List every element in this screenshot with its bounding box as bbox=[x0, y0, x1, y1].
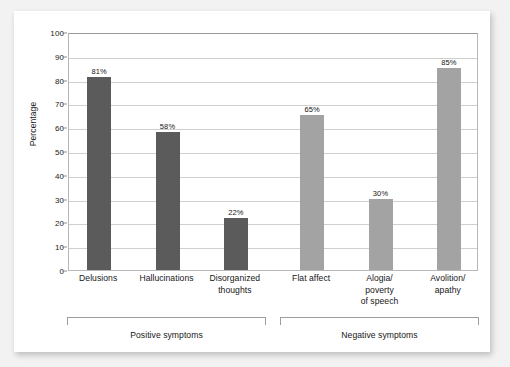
x-axis-category-labels: DelusionsHallucinationsDisorganizedthoug… bbox=[68, 273, 478, 321]
y-tick-mark bbox=[62, 56, 67, 57]
bar-value-label: 81% bbox=[92, 67, 107, 76]
y-tick-label: 70 bbox=[20, 100, 64, 109]
figure-panel: Percentage 1009080706050403020100 81%58%… bbox=[14, 11, 490, 352]
y-tick-mark bbox=[62, 199, 67, 200]
y-tick-mark bbox=[62, 247, 67, 248]
group-brackets: Positive symptomsNegative symptoms bbox=[68, 317, 478, 351]
gridline bbox=[69, 201, 477, 202]
x-category-label-line: Avolition/ bbox=[401, 273, 495, 285]
x-category-label-line: of speech bbox=[333, 296, 427, 308]
gridline bbox=[69, 153, 477, 154]
y-tick-label: 60 bbox=[20, 124, 64, 133]
bar: 65% bbox=[300, 115, 324, 270]
gridline bbox=[69, 224, 477, 225]
x-category-label: Avolition/apathy bbox=[401, 273, 495, 296]
bar-value-label: 85% bbox=[441, 58, 456, 67]
bar: 30% bbox=[369, 199, 393, 270]
y-tick-mark bbox=[62, 175, 67, 176]
y-axis-tick-group: 1009080706050403020100 bbox=[14, 33, 64, 271]
gridline bbox=[69, 105, 477, 106]
gridline bbox=[69, 58, 477, 59]
gridline bbox=[69, 129, 477, 130]
group-bracket-label: Negative symptoms bbox=[280, 330, 480, 340]
y-tick-mark bbox=[62, 223, 67, 224]
group-bracket bbox=[67, 317, 267, 325]
gridline bbox=[69, 177, 477, 178]
bar-value-label: 65% bbox=[305, 105, 320, 114]
y-tick-mark bbox=[62, 104, 67, 105]
bar-chart: Percentage 1009080706050403020100 81%58%… bbox=[14, 11, 490, 352]
plot-area: 81%58%22%65%30%85% bbox=[68, 33, 478, 271]
bar: 22% bbox=[224, 218, 248, 270]
y-tick-label: 80 bbox=[20, 76, 64, 85]
gridline bbox=[69, 82, 477, 83]
bar-value-label: 30% bbox=[373, 189, 388, 198]
y-tick-label: 30 bbox=[20, 195, 64, 204]
x-category-label-line: thoughts bbox=[188, 285, 282, 297]
bar: 58% bbox=[156, 132, 180, 270]
y-tick-label: 50 bbox=[20, 148, 64, 157]
gridline bbox=[69, 248, 477, 249]
y-tick-label: 90 bbox=[20, 52, 64, 61]
bar-value-label: 22% bbox=[228, 208, 243, 217]
group-bracket-label: Positive symptoms bbox=[67, 330, 267, 340]
y-tick-label: 100 bbox=[20, 29, 64, 38]
x-category-label-line: apathy bbox=[401, 285, 495, 297]
y-tick-label: 40 bbox=[20, 171, 64, 180]
bar-value-label: 58% bbox=[160, 122, 175, 131]
y-tick-mark bbox=[62, 271, 67, 272]
y-tick-mark bbox=[62, 128, 67, 129]
y-tick-mark bbox=[62, 80, 67, 81]
y-tick-label: 10 bbox=[20, 243, 64, 252]
bar: 85% bbox=[437, 68, 461, 270]
y-tick-label: 20 bbox=[20, 219, 64, 228]
y-tick-mark bbox=[62, 33, 67, 34]
y-tick-mark bbox=[62, 152, 67, 153]
group-bracket bbox=[280, 317, 480, 325]
bar: 81% bbox=[87, 77, 111, 270]
